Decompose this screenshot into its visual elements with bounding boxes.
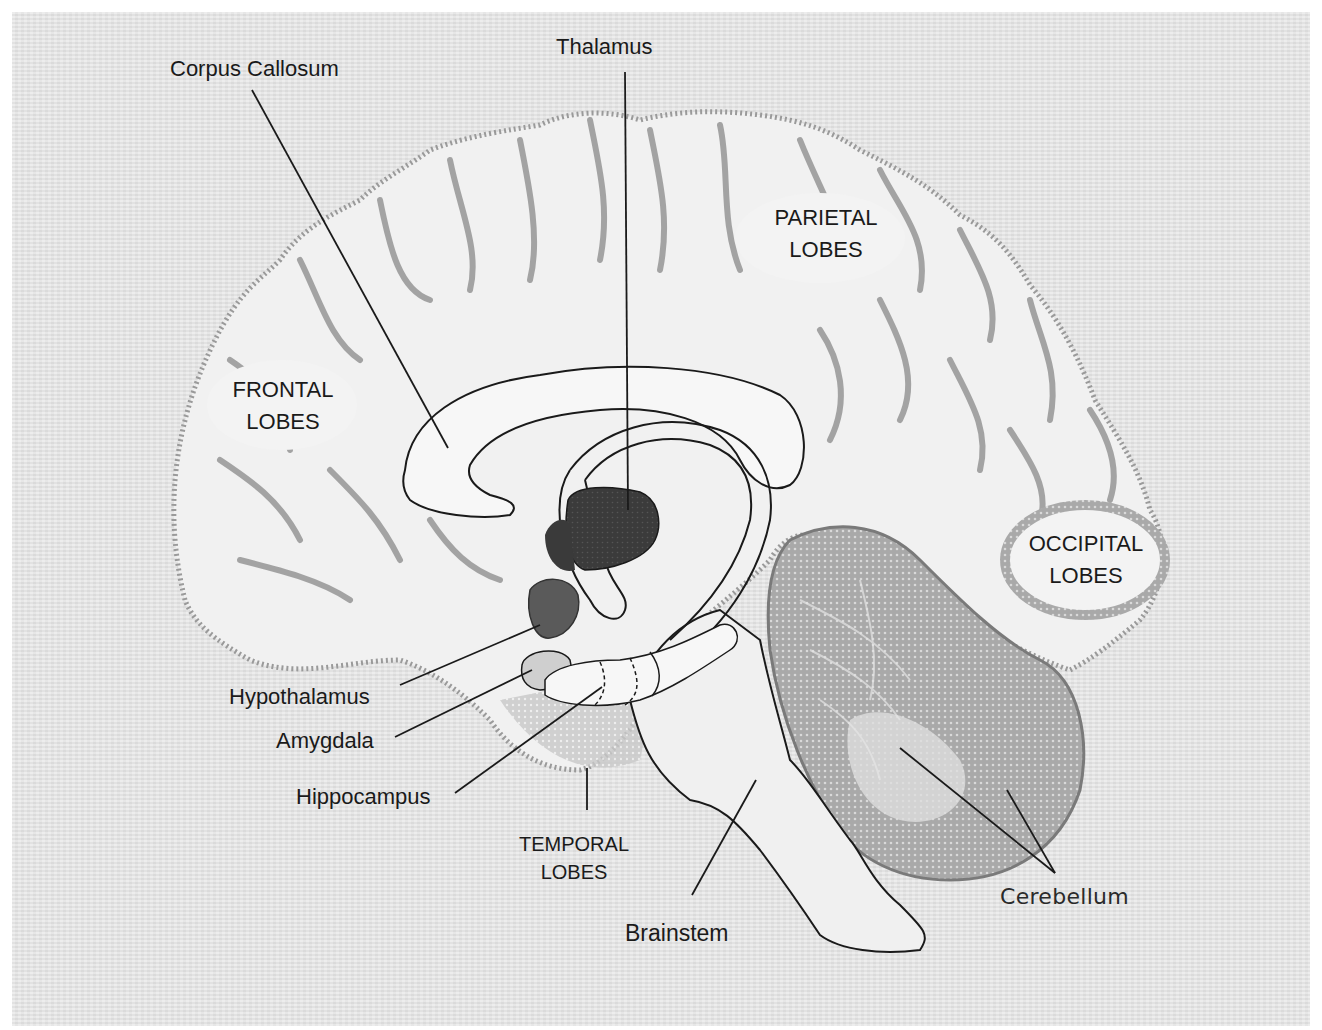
label-parietal-lobes: PARIETAL LOBES	[758, 202, 894, 266]
label-occipital-lobes: OCCIPITAL LOBES	[1012, 528, 1160, 592]
label-frontal-line2: LOBES	[218, 406, 348, 438]
label-hypothalamus: Hypothalamus	[229, 686, 370, 708]
label-parietal-line2: LOBES	[758, 234, 894, 266]
label-amygdala: Amygdala	[276, 730, 374, 752]
label-corpus-callosum: Corpus Callosum	[170, 58, 339, 80]
label-parietal-line1: PARIETAL	[758, 202, 894, 234]
label-occipital-line2: LOBES	[1012, 560, 1160, 592]
label-temporal-line2: LOBES	[500, 858, 648, 886]
label-thalamus: Thalamus	[556, 36, 653, 58]
label-hippocampus: Hippocampus	[296, 786, 431, 808]
label-brainstem: Brainstem	[625, 922, 729, 945]
label-cerebellum: Cerebellum	[1000, 886, 1129, 908]
label-temporal-lobes: TEMPORAL LOBES	[500, 830, 648, 886]
brain-diagram	[0, 0, 1322, 1030]
label-frontal-lobes: FRONTAL LOBES	[218, 374, 348, 438]
label-temporal-line1: TEMPORAL	[500, 830, 648, 858]
label-occipital-line1: OCCIPITAL	[1012, 528, 1160, 560]
label-frontal-line1: FRONTAL	[218, 374, 348, 406]
